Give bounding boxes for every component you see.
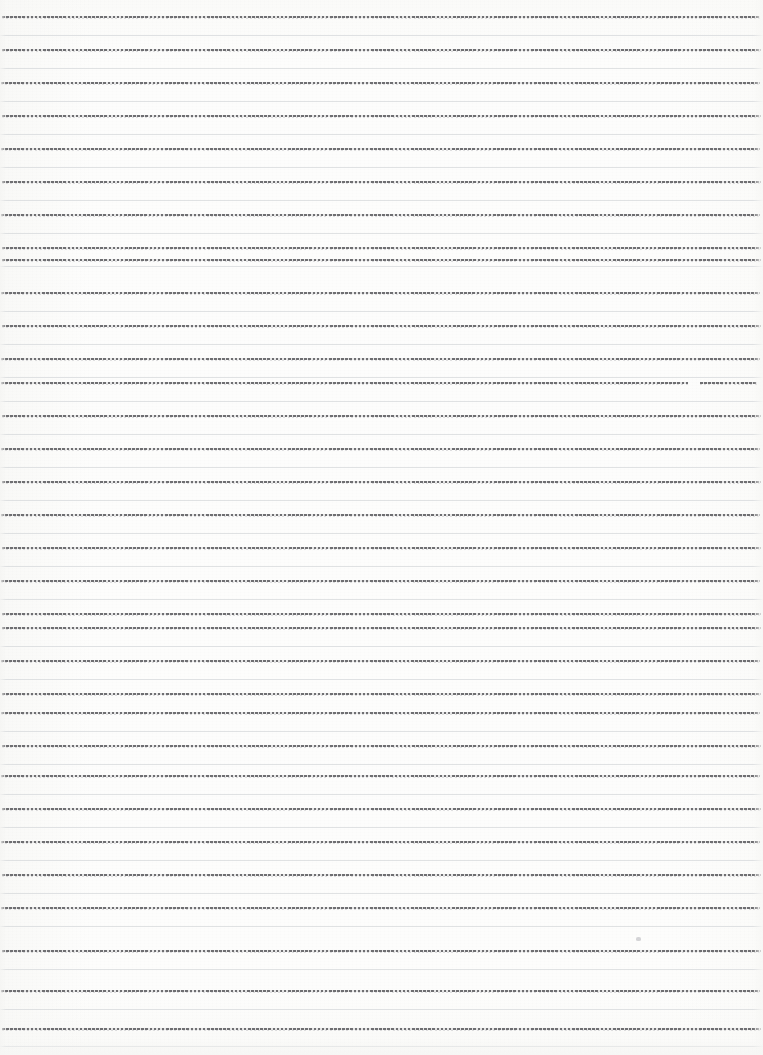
ruled-line-shadow-0 — [2, 18, 760, 19]
ruled-line-22 — [2, 693, 761, 695]
ruled-line-shadow-22 — [2, 695, 761, 696]
faint-guide-line-26 — [0, 926, 763, 927]
faint-guide-line-11 — [0, 401, 763, 402]
faint-guide-line-3 — [0, 134, 763, 135]
faint-guide-line-14 — [0, 500, 763, 501]
ruled-line-32 — [2, 1028, 761, 1030]
right-edge-fade — [753, 0, 763, 1055]
ruled-line-shadow-10 — [2, 327, 761, 328]
ruled-line-9 — [1, 292, 760, 294]
ruled-line-24 — [2, 745, 761, 747]
ruled-line-shadow-13 — [2, 417, 761, 418]
ruled-line-23 — [1, 712, 760, 714]
ruled-line-25 — [1, 775, 760, 777]
ruled-line-0 — [2, 16, 760, 18]
ruled-line-6 — [1, 214, 760, 216]
faint-guide-line-19 — [0, 679, 763, 680]
paper-grain-texture — [0, 0, 763, 1055]
ruled-line-12 — [700, 382, 757, 384]
ruled-line-shadow-25 — [1, 777, 760, 778]
ruled-line-shadow-7 — [2, 249, 761, 250]
ruled-line-shadow-30 — [2, 952, 761, 953]
faint-guide-line-6 — [0, 233, 763, 234]
faint-guide-line-15 — [0, 533, 763, 534]
ruled-line-shadow-24 — [2, 747, 761, 748]
ruled-line-shadow-26 — [2, 810, 761, 811]
ruled-line-shadow-21 — [1, 662, 760, 663]
ruled-line-13 — [2, 415, 761, 417]
ruled-line-10 — [2, 325, 761, 327]
ruled-line-shadow-5 — [2, 183, 761, 184]
ruled-line-shadow-11 — [1, 360, 760, 361]
ruled-line-8 — [2, 259, 761, 261]
ruled-line-20 — [2, 627, 761, 629]
ruled-line-shadow-6 — [1, 216, 760, 217]
faint-guide-line-4 — [0, 167, 763, 168]
ruled-line-15 — [2, 481, 761, 483]
faint-guide-line-10 — [0, 377, 763, 378]
faint-guide-line-13 — [0, 467, 763, 468]
pencil-smudge — [636, 937, 641, 941]
ruled-line-17 — [2, 547, 761, 549]
ruled-line-shadow-2 — [1, 84, 760, 85]
faint-guide-line-12 — [0, 434, 763, 435]
ruled-line-shadow-29 — [1, 909, 760, 910]
faint-guide-line-20 — [0, 731, 763, 732]
ruled-line-shadow-23 — [1, 714, 760, 715]
ruled-line-shadow-28 — [2, 876, 761, 877]
ruled-line-30 — [2, 950, 761, 952]
faint-guide-line-0 — [0, 35, 763, 36]
faint-guide-line-29 — [0, 1046, 763, 1047]
ruled-line-18 — [1, 580, 760, 582]
faint-guide-line-8 — [0, 311, 763, 312]
faint-guide-line-9 — [0, 344, 763, 345]
ruled-line-11 — [1, 358, 760, 360]
ruled-line-shadow-8 — [2, 261, 761, 262]
faint-guide-line-24 — [0, 860, 763, 861]
ruled-line-1 — [2, 49, 761, 51]
ruled-line-shadow-15 — [2, 483, 761, 484]
ruled-line-31 — [1, 990, 760, 992]
ruled-line-21 — [1, 660, 760, 662]
ruled-line-shadow-31 — [1, 992, 760, 993]
bottom-edge-fade — [0, 1041, 763, 1055]
faint-guide-line-1 — [0, 68, 763, 69]
ruled-line-7 — [2, 247, 761, 249]
ruled-line-2 — [1, 82, 760, 84]
ruled-line-shadow-20 — [2, 629, 761, 630]
faint-guide-line-23 — [0, 827, 763, 828]
ruled-line-shadow-32 — [2, 1030, 761, 1031]
ruled-line-shadow-12 — [700, 384, 757, 385]
ruled-line-shadow-17 — [2, 549, 761, 550]
scan-vignette — [0, 0, 763, 1055]
faint-guide-line-17 — [0, 599, 763, 600]
ruled-line-shadow-27 — [1, 843, 760, 844]
faint-guide-line-2 — [0, 101, 763, 102]
ruled-line-shadow-4 — [1, 150, 760, 151]
ruled-line-shadow-9 — [1, 294, 760, 295]
faint-guide-line-25 — [0, 893, 763, 894]
ruled-line-shadow-1 — [2, 51, 761, 52]
faint-guide-line-18 — [0, 646, 763, 647]
ruled-line-26 — [2, 808, 761, 810]
left-edge-fade — [0, 0, 6, 1055]
ruled-line-27 — [1, 841, 760, 843]
faint-guide-line-5 — [0, 200, 763, 201]
ruled-line-shadow-3 — [2, 117, 761, 118]
ruled-line-3 — [2, 115, 761, 117]
ruled-line-shadow-12 — [1, 384, 688, 385]
ruled-line-shadow-19 — [2, 615, 761, 616]
faint-guide-line-7 — [0, 266, 763, 267]
ruled-line-12 — [1, 382, 688, 384]
ruled-line-28 — [2, 874, 761, 876]
ruled-line-shadow-16 — [1, 516, 760, 517]
ruled-line-16 — [1, 514, 760, 516]
faint-guide-line-22 — [0, 794, 763, 795]
ruled-line-19 — [2, 613, 761, 615]
ruled-line-14 — [1, 448, 760, 450]
faint-guide-line-16 — [0, 566, 763, 567]
ruled-line-29 — [1, 907, 760, 909]
faint-guide-line-28 — [0, 1009, 763, 1010]
scanned-page — [0, 0, 763, 1055]
faint-guide-line-27 — [0, 969, 763, 970]
